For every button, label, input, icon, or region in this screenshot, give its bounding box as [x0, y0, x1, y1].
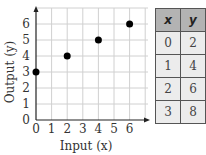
tick-labels: 01234560123456	[22, 17, 133, 136]
table-cell: 6	[181, 78, 206, 101]
svg-text:6: 6	[126, 122, 134, 136]
table-cell: 0	[156, 32, 181, 55]
table-cell: 8	[181, 101, 206, 124]
svg-text:1: 1	[22, 97, 30, 111]
x-axis-label: Input (x)	[60, 139, 113, 153]
table-body: 02142638	[156, 32, 206, 124]
svg-text:3: 3	[22, 65, 30, 79]
svg-text:6: 6	[22, 17, 30, 31]
svg-text:0: 0	[22, 113, 30, 127]
svg-text:2: 2	[63, 122, 71, 136]
svg-text:3: 3	[79, 122, 87, 136]
table-cell: 2	[181, 32, 206, 55]
table-cell: 4	[181, 55, 206, 78]
svg-text:5: 5	[110, 122, 118, 136]
svg-text:5: 5	[22, 33, 30, 47]
data-point	[126, 21, 133, 28]
xy-table: xy 02142638	[155, 8, 206, 124]
svg-text:1: 1	[48, 122, 56, 136]
scatter-chart: 01234560123456 Input (x) Output (y)	[0, 0, 150, 155]
y-axis-label: Output (y)	[3, 41, 17, 104]
table-cell: 3	[156, 101, 181, 124]
data-point	[95, 37, 102, 44]
table-header-row: xy	[156, 9, 206, 32]
table-row: 26	[156, 78, 206, 101]
data-point	[64, 53, 71, 60]
table-cell: 1	[156, 55, 181, 78]
table-row: 38	[156, 101, 206, 124]
table-header-cell: x	[156, 9, 181, 32]
table-cell: 2	[156, 78, 181, 101]
table-row: 14	[156, 55, 206, 78]
svg-text:4: 4	[95, 122, 103, 136]
table-header-cell: y	[181, 9, 206, 32]
svg-text:2: 2	[22, 81, 30, 95]
svg-text:0: 0	[32, 122, 40, 136]
data-point	[33, 69, 40, 76]
table-row: 02	[156, 32, 206, 55]
svg-text:4: 4	[22, 49, 30, 63]
